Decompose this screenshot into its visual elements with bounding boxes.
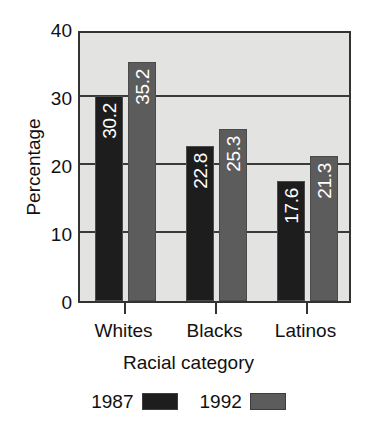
x-category-label-latinos: Latinos xyxy=(246,320,366,342)
legend-swatch-1987 xyxy=(142,393,178,410)
bar-blacks-1992[interactable]: 25.3 xyxy=(219,129,247,301)
legend-item-1992[interactable]: 1992 xyxy=(200,392,286,411)
legend-label: 1987 xyxy=(91,392,133,411)
bar-whites-1992[interactable]: 35.2 xyxy=(128,62,156,301)
x-tick-mark-blacks xyxy=(215,303,217,314)
bar-value-label: 30.2 xyxy=(100,103,119,139)
bar-latinos-1987[interactable]: 17.6 xyxy=(277,181,305,301)
bar-value-label: 22.8 xyxy=(191,153,210,189)
bar-value-label: 25.3 xyxy=(224,136,243,172)
bar-latinos-1992[interactable]: 21.3 xyxy=(310,156,338,301)
legend: 19871992 xyxy=(0,392,377,411)
bar-blacks-1987[interactable]: 22.8 xyxy=(186,146,214,301)
bar-value-label: 17.6 xyxy=(282,188,301,224)
y-tick-label-20: 20 xyxy=(12,157,72,176)
bar-value-label: 35.2 xyxy=(133,69,152,105)
bar-whites-1987[interactable]: 30.2 xyxy=(95,96,123,301)
x-tick-mark-latinos xyxy=(306,303,308,314)
x-tick-mark-whites xyxy=(124,303,126,314)
bar-value-label: 21.3 xyxy=(315,163,334,199)
y-tick-label-30: 30 xyxy=(12,89,72,108)
y-tick-label-10: 10 xyxy=(12,225,72,244)
plot-area: 30.235.222.825.317.621.3 xyxy=(78,31,351,303)
x-axis-title: Racial category xyxy=(0,352,377,374)
legend-label: 1992 xyxy=(200,392,242,411)
y-tick-label-0: 0 xyxy=(12,293,72,312)
legend-item-1987[interactable]: 1987 xyxy=(91,392,177,411)
legend-swatch-1992 xyxy=(250,393,286,410)
y-tick-label-40: 40 xyxy=(12,21,72,40)
bar-chart-figure: Percentage 010203040 30.235.222.825.317.… xyxy=(0,0,377,436)
